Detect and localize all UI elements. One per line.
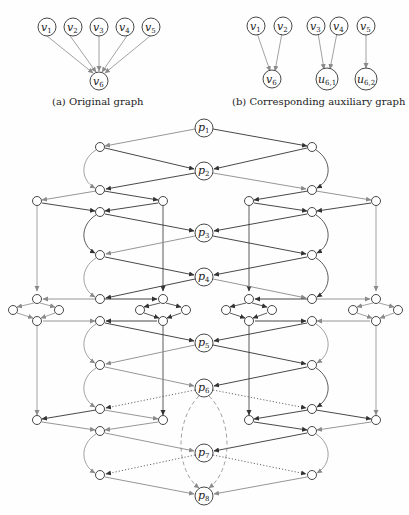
subfigure-a-edges bbox=[42, 32, 155, 73]
caption-auxiliary-graph: (b) Corresponding auxiliary graph bbox=[232, 96, 405, 107]
caption-original-graph: (a) Original graph bbox=[52, 96, 143, 107]
figure-canvas: v1 v2 v3 v4 v5 v6 v1 v2 v3 v4 v5 v6 u6,1… bbox=[0, 0, 409, 515]
subfigure-b-edges bbox=[257, 33, 366, 71]
subfigure-a-labels: v1 v2 v3 v4 v5 v6 bbox=[41, 21, 156, 89]
auxiliary-nodes bbox=[9, 143, 403, 480]
diamond-gadget-edges bbox=[17, 303, 394, 318]
subfigure-b-labels: v1 v2 v3 v4 v5 v6 u6,1 u6,2 bbox=[250, 20, 375, 87]
dashed-edges bbox=[181, 396, 227, 488]
curved-edges bbox=[84, 150, 328, 473]
diagonal-edges bbox=[42, 129, 371, 494]
